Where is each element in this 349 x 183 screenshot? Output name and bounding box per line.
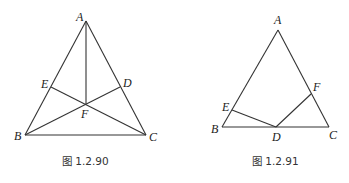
segment-AB [25, 21, 86, 135]
label-B: B [211, 122, 219, 136]
segment-ED [232, 110, 276, 127]
caption: 图 1.2.90 [62, 155, 109, 167]
segment-CA [86, 21, 146, 135]
caption: 图 1.2.91 [252, 155, 299, 167]
figure-1-2-91: A B C D E F 图 1.2.91 [211, 13, 338, 167]
segment-CA [278, 30, 329, 127]
label-A: A [273, 13, 282, 27]
label-F: F [312, 80, 321, 94]
figure-1-2-90: A B C D E F 图 1.2.90 [14, 10, 158, 167]
segment-DF [276, 94, 311, 127]
label-A: A [75, 10, 84, 24]
label-E: E [221, 100, 230, 114]
segment-BD [25, 87, 120, 135]
geometry-figures: A B C D E F 图 1.2.90 A B C D E F 图 1.2.9… [0, 0, 349, 183]
label-D: D [122, 76, 132, 90]
label-D: D [271, 130, 281, 144]
label-C: C [329, 128, 338, 142]
label-B: B [14, 129, 22, 143]
segment-CE [51, 87, 146, 135]
label-F: F [80, 107, 89, 121]
label-C: C [149, 130, 158, 144]
label-E: E [40, 77, 49, 91]
segment-AB [222, 30, 278, 127]
